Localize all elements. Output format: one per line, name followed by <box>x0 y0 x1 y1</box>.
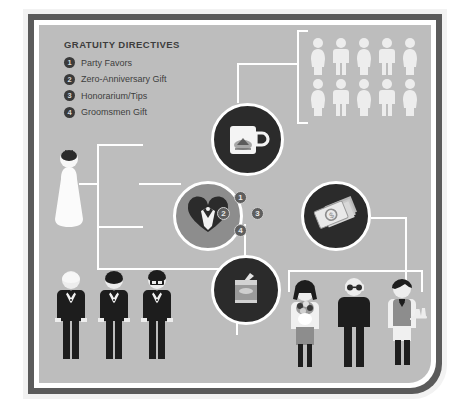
icon-circle-money[interactable]: $ <box>301 181 371 251</box>
center-badge-3: 3 <box>251 207 264 220</box>
money-stack-icon: $ <box>313 196 359 236</box>
icon-circle-heart[interactable] <box>173 181 243 251</box>
legend-label-2: Zero-Anniversary Gift <box>81 74 167 84</box>
legend-label-4: Groomsmen Gift <box>81 107 147 117</box>
group-guests <box>307 35 427 117</box>
legend: GRATUITY DIRECTIVES 1 Party Favors 2 Zer… <box>64 39 180 123</box>
connector-mug-horizontal <box>237 63 299 65</box>
gift-box-icon <box>226 270 266 310</box>
mug-icon <box>227 122 269 158</box>
center-badge-2: 2 <box>217 207 230 220</box>
legend-badge-4: 4 <box>64 107 75 118</box>
connector-money-horizontal <box>371 217 407 219</box>
legend-item-4: 4 Groomsmen Gift <box>64 107 180 118</box>
legend-title: GRATUITY DIRECTIVES <box>64 39 180 50</box>
legend-item-2: 2 Zero-Anniversary Gift <box>64 74 180 85</box>
group-service-staff <box>281 275 426 370</box>
connector-mug-vertical <box>237 63 239 103</box>
infographic-stage: GRATUITY DIRECTIVES 1 Party Favors 2 Zer… <box>39 25 431 383</box>
legend-badge-2: 2 <box>64 74 75 85</box>
infographic-poster: GRATUITY DIRECTIVES 1 Party Favors 2 Zer… <box>0 0 460 419</box>
connector-heart-horizontal <box>139 183 181 185</box>
legend-label-1: Party Favors <box>81 58 132 68</box>
figure-bride <box>47 147 91 233</box>
legend-item-1: 1 Party Favors <box>64 57 180 68</box>
center-badge-4: 4 <box>234 224 247 237</box>
legend-label-3: Honorarium/Tips <box>81 91 147 101</box>
legend-badge-1: 1 <box>64 57 75 68</box>
icon-circle-mug[interactable] <box>211 103 284 176</box>
center-badge-1: 1 <box>234 191 247 204</box>
icon-circle-gift[interactable] <box>211 255 281 325</box>
group-groomsmen <box>51 270 181 362</box>
legend-badge-3: 3 <box>64 90 75 101</box>
bracket-bride-groomsmen <box>97 144 143 228</box>
legend-item-3: 3 Honorarium/Tips <box>64 90 180 101</box>
